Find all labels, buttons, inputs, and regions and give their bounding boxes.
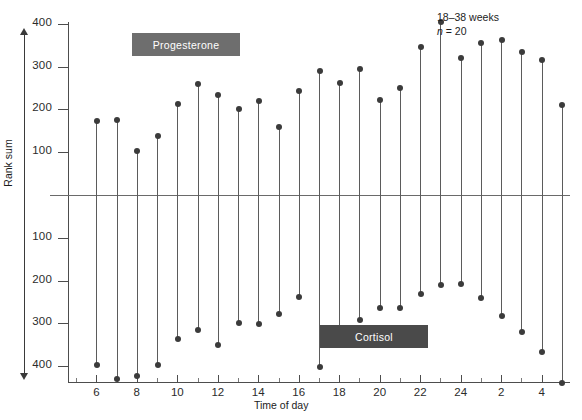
datapoint-progesterone-1 bbox=[478, 40, 484, 46]
datapoint-cortisol-5 bbox=[559, 380, 565, 386]
stem-progesterone-2 bbox=[501, 40, 502, 195]
x-minor-tick-4 bbox=[238, 378, 239, 382]
y-tick-400 bbox=[58, 24, 68, 25]
x-tick-label-6: 18 bbox=[319, 386, 359, 398]
y-tick-label-lower-3: 400 bbox=[10, 358, 52, 370]
stem-cortisol-6 bbox=[96, 195, 97, 365]
stem-progesterone-21 bbox=[400, 88, 401, 195]
datapoint-cortisol-20 bbox=[377, 305, 383, 311]
y-tick-label-upper-2: 200 bbox=[10, 101, 52, 113]
rank-sum-chart: Rank sum 4003002001001002003004006810121… bbox=[0, 0, 582, 420]
stem-cortisol-11 bbox=[198, 195, 199, 330]
x-tick-label-8: 22 bbox=[400, 386, 440, 398]
annotation-weeks: 18–38 weeks bbox=[437, 11, 499, 23]
series-label-progesterone: Progesterone bbox=[132, 33, 240, 56]
datapoint-cortisol-16 bbox=[296, 294, 302, 300]
datapoint-progesterone-19 bbox=[357, 66, 363, 72]
x-minor-tick-10 bbox=[481, 378, 482, 382]
stem-cortisol-14 bbox=[258, 195, 259, 324]
x-tick-2 bbox=[501, 375, 502, 382]
datapoint-progesterone-12 bbox=[215, 92, 221, 98]
x-tick-label-4: 14 bbox=[238, 386, 278, 398]
datapoint-progesterone-24 bbox=[458, 55, 464, 61]
y-tick-label-lower-0: 100 bbox=[10, 230, 52, 242]
stem-progesterone-12 bbox=[218, 95, 219, 195]
stem-progesterone-4 bbox=[542, 60, 543, 195]
stem-cortisol-7 bbox=[117, 195, 118, 379]
datapoint-progesterone-8 bbox=[134, 148, 140, 154]
x-tick-label-2: 10 bbox=[157, 386, 197, 398]
datapoint-progesterone-17 bbox=[317, 68, 323, 74]
stem-progesterone-1 bbox=[481, 43, 482, 195]
x-tick-18 bbox=[339, 375, 340, 382]
stem-cortisol-5 bbox=[562, 195, 563, 383]
datapoint-cortisol-22 bbox=[418, 291, 424, 297]
datapoint-cortisol-19 bbox=[357, 317, 363, 323]
datapoint-progesterone-22 bbox=[418, 44, 424, 50]
stem-cortisol-20 bbox=[380, 195, 381, 308]
stem-progesterone-18 bbox=[339, 83, 340, 195]
datapoint-progesterone-3 bbox=[519, 49, 525, 55]
y-tick-label-lower-1: 200 bbox=[10, 273, 52, 285]
y-tick-label-upper-1: 300 bbox=[10, 59, 52, 71]
datapoint-progesterone-18 bbox=[337, 80, 343, 86]
stem-progesterone-16 bbox=[299, 91, 300, 195]
datapoint-cortisol-12 bbox=[215, 342, 221, 348]
x-tick-22 bbox=[420, 375, 421, 382]
stem-cortisol-4 bbox=[542, 195, 543, 352]
stem-cortisol-21 bbox=[400, 195, 401, 308]
y-tick-200 bbox=[58, 109, 68, 110]
x-tick-label-7: 20 bbox=[360, 386, 400, 398]
annotation-n: n = 20 bbox=[437, 24, 499, 38]
y-tick-minus-400 bbox=[58, 366, 68, 367]
stem-progesterone-19 bbox=[359, 69, 360, 195]
x-tick-4 bbox=[542, 375, 543, 382]
x-minor-tick-0 bbox=[76, 378, 77, 382]
stem-cortisol-10 bbox=[177, 195, 178, 339]
stem-progesterone-20 bbox=[380, 100, 381, 195]
x-tick-6 bbox=[96, 375, 97, 382]
stem-progesterone-9 bbox=[157, 136, 158, 195]
stem-progesterone-3 bbox=[521, 52, 522, 195]
datapoint-cortisol-6 bbox=[94, 362, 100, 368]
stem-progesterone-5 bbox=[562, 105, 563, 195]
stem-progesterone-11 bbox=[198, 84, 199, 195]
stem-progesterone-24 bbox=[461, 58, 462, 195]
stem-cortisol-9 bbox=[157, 195, 158, 365]
stem-progesterone-6 bbox=[96, 121, 97, 195]
series-label-progesterone-text: Progesterone bbox=[153, 39, 220, 51]
datapoint-progesterone-21 bbox=[397, 85, 403, 91]
x-minor-tick-5 bbox=[279, 378, 280, 382]
x-tick-20 bbox=[380, 375, 381, 382]
x-minor-tick-6 bbox=[319, 378, 320, 382]
x-minor-tick-11 bbox=[521, 378, 522, 382]
x-tick-12 bbox=[218, 375, 219, 382]
datapoint-progesterone-4 bbox=[539, 57, 545, 63]
datapoint-cortisol-21 bbox=[397, 305, 403, 311]
datapoint-progesterone-9 bbox=[155, 133, 161, 139]
stem-progesterone-13 bbox=[238, 109, 239, 195]
datapoint-cortisol-24 bbox=[458, 281, 464, 287]
y-tick-label-upper-3: 100 bbox=[10, 144, 52, 156]
stem-cortisol-3 bbox=[521, 195, 522, 332]
x-tick-label-0: 6 bbox=[76, 386, 116, 398]
stem-cortisol-22 bbox=[420, 195, 421, 294]
datapoint-cortisol-15 bbox=[276, 311, 282, 317]
stem-progesterone-17 bbox=[319, 71, 320, 195]
y-tick-minus-200 bbox=[58, 281, 68, 282]
datapoint-progesterone-5 bbox=[559, 102, 565, 108]
datapoint-cortisol-2 bbox=[499, 313, 505, 319]
x-axis-spine bbox=[68, 382, 570, 383]
datapoint-cortisol-1 bbox=[478, 295, 484, 301]
datapoint-cortisol-8 bbox=[134, 373, 140, 379]
datapoint-progesterone-20 bbox=[377, 97, 383, 103]
datapoint-cortisol-11 bbox=[195, 327, 201, 333]
datapoint-cortisol-17 bbox=[317, 364, 323, 370]
stem-cortisol-15 bbox=[279, 195, 280, 314]
x-tick-16 bbox=[299, 375, 300, 382]
arrow-down-icon bbox=[20, 373, 28, 380]
zero-reference-line bbox=[50, 195, 570, 196]
stem-progesterone-8 bbox=[137, 151, 138, 195]
stem-progesterone-14 bbox=[258, 101, 259, 195]
stem-cortisol-18 bbox=[339, 195, 340, 336]
